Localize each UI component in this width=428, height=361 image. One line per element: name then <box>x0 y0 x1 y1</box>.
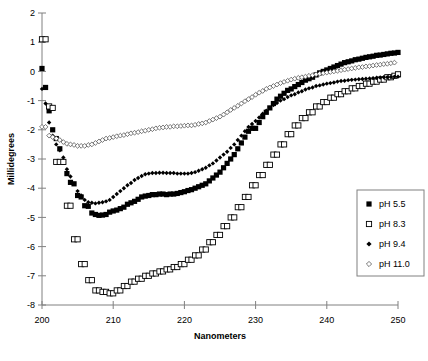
data-point <box>325 81 329 85</box>
legend-label-ph-9-4: pH 9.4 <box>379 239 406 249</box>
data-point <box>61 159 66 164</box>
data-point <box>225 150 229 154</box>
data-point <box>339 79 343 83</box>
series-ph-5-5 <box>39 50 400 218</box>
data-point <box>289 132 294 137</box>
data-point <box>65 167 69 171</box>
chart-canvas: 210-1-2-3-4-5-6-7-8200210220230240250Nan… <box>0 0 428 361</box>
legend-label-ph-5-5: pH 5.5 <box>379 199 406 209</box>
data-point <box>232 152 237 157</box>
data-point <box>39 66 44 71</box>
data-point <box>296 123 301 128</box>
data-point <box>321 82 325 86</box>
data-point <box>211 161 215 165</box>
y-tick-label: -1 <box>27 96 35 106</box>
data-point <box>293 92 297 96</box>
x-tick-label: 240 <box>319 315 334 325</box>
y-tick-label: -6 <box>27 242 35 252</box>
data-point <box>47 120 51 124</box>
data-point <box>267 162 272 167</box>
x-tick-label: 210 <box>106 315 121 325</box>
data-point <box>75 237 80 242</box>
data-point <box>364 77 368 81</box>
x-tick-label: 230 <box>248 315 263 325</box>
data-point <box>54 142 58 146</box>
data-point <box>139 174 143 178</box>
cd-spectrum-chart: 210-1-2-3-4-5-6-7-8200210220230240250Nan… <box>0 0 428 361</box>
y-tick-label: -2 <box>27 125 35 135</box>
data-point <box>332 80 336 84</box>
x-tick-label: 250 <box>390 315 405 325</box>
data-point <box>217 232 222 237</box>
data-point <box>360 77 364 81</box>
data-point <box>161 171 165 175</box>
data-point <box>154 171 158 175</box>
data-point <box>221 152 225 156</box>
y-tick-label: -7 <box>27 271 35 281</box>
y-tick-label: -5 <box>27 213 35 223</box>
data-point <box>328 81 332 85</box>
data-point <box>50 127 55 132</box>
legend-marker-ph-8-3 <box>366 221 371 226</box>
data-point <box>136 176 140 180</box>
data-point <box>115 192 119 196</box>
data-point <box>350 78 354 82</box>
y-tick-label: 1 <box>30 37 35 47</box>
data-point <box>253 183 258 188</box>
data-point <box>207 163 211 167</box>
data-point <box>97 201 101 205</box>
data-point <box>43 37 48 42</box>
series-ph-11-0 <box>40 60 397 148</box>
data-point <box>147 171 151 175</box>
data-point <box>232 215 237 220</box>
data-point <box>50 105 55 110</box>
data-point <box>189 171 193 175</box>
data-point <box>260 172 265 177</box>
data-point <box>246 194 251 199</box>
data-point <box>43 124 48 129</box>
data-point <box>111 195 115 199</box>
series-ph-8-3 <box>39 37 400 296</box>
data-point <box>395 50 400 55</box>
data-point <box>203 247 208 252</box>
legend-marker-ph-5-5 <box>366 201 371 206</box>
data-point <box>274 152 279 157</box>
y-tick-label: -3 <box>27 154 35 164</box>
data-point <box>93 201 97 205</box>
data-point <box>196 253 201 258</box>
data-point <box>250 122 254 126</box>
data-point <box>303 87 307 91</box>
y-tick-label: -8 <box>27 300 35 310</box>
data-point <box>281 142 286 147</box>
data-point <box>228 146 232 150</box>
data-point <box>86 204 91 209</box>
data-point <box>317 83 321 87</box>
data-point <box>289 93 293 97</box>
data-point <box>239 140 244 145</box>
data-point <box>118 189 122 193</box>
data-point <box>300 89 304 93</box>
legend-label-ph-11-0: pH 11.0 <box>379 259 410 269</box>
data-point <box>232 142 236 146</box>
y-tick-label: 2 <box>30 8 35 18</box>
y-axis-title: Millidegrees <box>6 133 16 185</box>
y-tick-label: -4 <box>27 183 35 193</box>
data-point <box>218 155 222 159</box>
data-point <box>172 171 176 175</box>
data-point <box>68 203 73 208</box>
data-point <box>82 262 87 267</box>
data-point <box>210 240 215 245</box>
data-point <box>303 116 308 121</box>
data-point <box>122 186 126 190</box>
data-point <box>143 172 147 176</box>
x-axis-title: Nanometers <box>194 331 246 341</box>
data-point <box>132 178 136 182</box>
data-point <box>225 224 230 229</box>
data-point <box>357 77 361 81</box>
data-point <box>296 90 300 94</box>
legend-label-ph-8-3: pH 8.3 <box>379 219 406 229</box>
data-point <box>310 110 315 115</box>
data-point <box>214 158 218 162</box>
data-point <box>346 78 350 82</box>
data-point <box>100 200 104 204</box>
